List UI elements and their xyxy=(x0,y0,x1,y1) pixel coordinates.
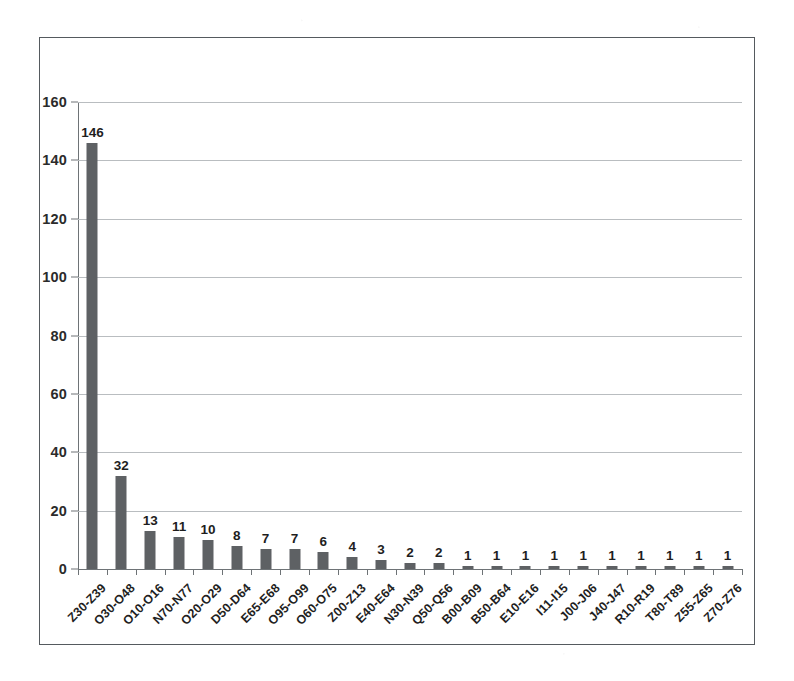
bar-slot[interactable]: 6 xyxy=(309,102,338,569)
y-axis-tick-label: 140 xyxy=(42,152,67,168)
y-tick-mark-0 xyxy=(71,569,78,570)
y-tick-mark-40 xyxy=(71,452,78,453)
y-tick-mark-140 xyxy=(71,160,78,161)
bar[interactable] xyxy=(116,476,127,569)
bar-value-label: 8 xyxy=(233,528,241,543)
bar[interactable] xyxy=(145,531,156,569)
bar[interactable] xyxy=(289,549,300,569)
bar-slot[interactable]: 1 xyxy=(655,102,684,569)
bar-slot[interactable]: 11 xyxy=(165,102,194,569)
bar-slot[interactable]: 1 xyxy=(453,102,482,569)
bar-value-label: 11 xyxy=(172,519,186,534)
y-axis-tick-label: 60 xyxy=(50,386,67,402)
bar-slot[interactable]: 1 xyxy=(569,102,598,569)
bar[interactable] xyxy=(231,546,242,569)
bar[interactable] xyxy=(202,540,213,569)
bar-value-label: 3 xyxy=(377,542,385,557)
y-tick-mark-60 xyxy=(71,393,78,394)
bar-value-label: 1 xyxy=(666,548,674,563)
bar[interactable] xyxy=(174,537,185,569)
bar-slot[interactable]: 1 xyxy=(482,102,511,569)
x-axis-labels: Z30-Z39O30-O48O10-O16N70-N77O20-O29D50-D… xyxy=(78,569,742,649)
y-tick-mark-160 xyxy=(71,102,78,103)
bar-slot[interactable]: 10 xyxy=(193,102,222,569)
bar-value-label: 1 xyxy=(579,548,587,563)
bars-layer: 14632131110877643221111111111 xyxy=(78,102,742,569)
y-tick-mark-120 xyxy=(71,218,78,219)
bar-slot[interactable]: 1 xyxy=(684,102,713,569)
bar-slot[interactable]: 7 xyxy=(280,102,309,569)
bar-value-label: 2 xyxy=(435,545,443,560)
bar-slot[interactable]: 1 xyxy=(598,102,627,569)
y-tick-mark-100 xyxy=(71,277,78,278)
bar-value-label: 1 xyxy=(493,548,501,563)
bar[interactable] xyxy=(87,143,98,569)
chart-container: 020406080100120140160 146321311108776432… xyxy=(39,37,755,645)
bar-value-label: 10 xyxy=(200,522,215,537)
bar-slot[interactable]: 1 xyxy=(627,102,656,569)
y-tick-mark-20 xyxy=(71,510,78,511)
bar-value-label: 2 xyxy=(406,545,414,560)
y-axis-tick-label: 40 xyxy=(50,444,67,460)
y-axis-tick-label: 80 xyxy=(50,328,67,344)
y-axis-tick-label: 160 xyxy=(42,94,67,110)
bar-value-label: 1 xyxy=(464,548,472,563)
bar-value-label: 7 xyxy=(291,531,299,546)
bar-value-label: 1 xyxy=(522,548,530,563)
bar-slot[interactable]: 146 xyxy=(78,102,107,569)
bar-slot[interactable]: 3 xyxy=(367,102,396,569)
bar-slot[interactable]: 2 xyxy=(396,102,425,569)
bar-value-label: 1 xyxy=(608,548,616,563)
y-axis-tick-label: 0 xyxy=(59,561,67,577)
bar[interactable] xyxy=(347,557,358,569)
bar-slot[interactable]: 7 xyxy=(251,102,280,569)
bar-value-label: 1 xyxy=(695,548,703,563)
bar-slot[interactable]: 32 xyxy=(107,102,136,569)
bar-slot[interactable]: 1 xyxy=(511,102,540,569)
x-axis-tick-mark xyxy=(742,569,743,575)
bar-slot[interactable]: 13 xyxy=(136,102,165,569)
bar[interactable] xyxy=(260,549,271,569)
bar-value-label: 7 xyxy=(262,531,270,546)
bar-slot[interactable]: 1 xyxy=(540,102,569,569)
y-axis-tick-label: 100 xyxy=(42,269,67,285)
plot-area: 020406080100120140160 146321311108776432… xyxy=(78,102,742,569)
bar-value-label: 146 xyxy=(81,125,104,140)
bar-slot[interactable]: 2 xyxy=(424,102,453,569)
y-axis-tick-label: 20 xyxy=(50,503,67,519)
y-axis-tick-label: 120 xyxy=(42,211,67,227)
bar-slot[interactable]: 8 xyxy=(222,102,251,569)
y-tick-mark-80 xyxy=(71,335,78,336)
bar-value-label: 1 xyxy=(637,548,645,563)
bar-value-label: 6 xyxy=(320,534,328,549)
bar-slot[interactable]: 4 xyxy=(338,102,367,569)
bar-value-label: 1 xyxy=(724,548,732,563)
bar-value-label: 1 xyxy=(551,548,559,563)
bar-value-label: 32 xyxy=(114,458,129,473)
bar-value-label: 4 xyxy=(348,539,356,554)
bar-value-label: 13 xyxy=(143,513,158,528)
bar-slot[interactable]: 1 xyxy=(713,102,742,569)
bar[interactable] xyxy=(318,552,329,570)
bar[interactable] xyxy=(376,560,387,569)
